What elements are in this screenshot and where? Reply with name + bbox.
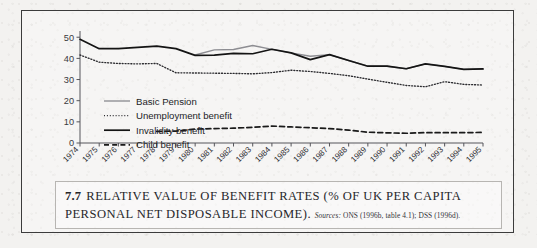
x-tick-label: 1995 [464, 145, 483, 164]
x-tick-label: 1974 [61, 145, 80, 164]
sources-references: ONS (1996b, table 4.1); DSS (1996d). [343, 211, 460, 220]
caption-text-line-2: PERSONAL NET DISPOSABLE INCOME). [65, 207, 311, 221]
x-tick-label: 1982 [215, 145, 234, 164]
chart-plot-area: 01020304050 1974197519761977197819791980… [46, 25, 489, 165]
x-tick-label: 1991 [388, 145, 407, 164]
legend-label-invalidity-benefit: Invalidity benefit [136, 125, 205, 136]
series-line-child-benefit [157, 126, 483, 133]
legend-label-child-benefit: Child benefit [136, 139, 190, 150]
x-tick-label: 1975 [81, 145, 100, 164]
x-tick-label: 1987 [311, 145, 330, 164]
y-tick-label: 20 [64, 96, 74, 106]
caption-line-2: PERSONAL NET DISPOSABLE INCOME). Sources… [65, 206, 492, 224]
y-tick-label: 40 [64, 54, 74, 64]
x-tick-label: 1985 [272, 145, 291, 164]
legend-label-unemployment-benefit: Unemployment benefit [136, 110, 232, 121]
y-tick-label: 10 [64, 117, 74, 127]
series-line-invalidity-benefit [80, 39, 483, 69]
benefit-rates-line-chart: 01020304050 1974197519761977197819791980… [46, 25, 489, 165]
x-tick-label: 1976 [100, 145, 119, 164]
figure-frame: 01020304050 1974197519761977197819791980… [21, 10, 514, 233]
caption-sources: Sources: ONS (1996b, table 4.1); DSS (19… [315, 211, 461, 220]
y-axis: 01020304050 [64, 31, 80, 148]
x-tick-label: 1989 [349, 145, 368, 164]
x-tick-label: 1992 [407, 145, 426, 164]
series-line-unemployment-benefit [80, 55, 483, 87]
figure-page: 01020304050 1974197519761977197819791980… [0, 0, 537, 248]
figure-number: 7.7 [65, 189, 81, 203]
sources-label: Sources: [315, 211, 341, 220]
y-tick-label: 30 [64, 75, 74, 85]
x-tick-label: 1994 [445, 145, 464, 164]
caption-line-1: 7.7RELATIVE VALUE OF BENEFIT RATES (% OF… [65, 188, 492, 206]
x-tick-label: 1990 [368, 145, 387, 164]
caption-box: 7.7RELATIVE VALUE OF BENEFIT RATES (% OF… [55, 181, 502, 229]
x-tick-label: 1984 [253, 145, 272, 164]
chart-legend: Basic PensionUnemployment benefitInvalid… [104, 96, 232, 151]
y-tick-label: 50 [64, 33, 74, 43]
legend-label-basic-pension: Basic Pension [136, 96, 197, 107]
x-tick-label: 1986 [292, 145, 311, 164]
x-tick-label: 1988 [330, 145, 349, 164]
caption-text-line-1: RELATIVE VALUE OF BENEFIT RATES (% OF UK… [86, 189, 461, 203]
x-tick-label: 1981 [196, 145, 215, 164]
x-tick-label: 1993 [426, 145, 445, 164]
x-tick-label: 1983 [234, 145, 253, 164]
x-axis: 1974197519761977197819791980198119821983… [61, 143, 483, 164]
